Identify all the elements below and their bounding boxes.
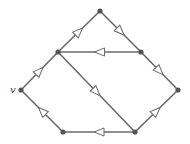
node-b	[138, 49, 143, 54]
node-labels: v	[10, 84, 16, 95]
arrowhead-icon	[94, 128, 104, 136]
arrowheads	[33, 25, 166, 136]
arrowhead-icon	[95, 48, 105, 56]
node-bl	[60, 129, 65, 134]
node-top	[97, 8, 102, 13]
node-a	[55, 49, 60, 54]
node-br	[132, 129, 137, 134]
directed-graph-diagram: v	[0, 0, 190, 144]
node-label-v: v	[10, 84, 16, 95]
node-v	[18, 87, 23, 92]
node-right	[175, 87, 180, 92]
